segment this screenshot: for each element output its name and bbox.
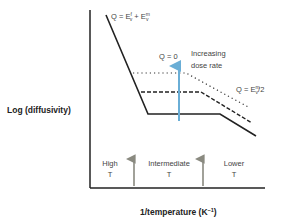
dose-rate-label-1: Increasing [191,49,226,58]
region-lower-line2: T [232,170,237,179]
top-activation-label: Q = Efv + Emv [111,11,150,22]
half-activation-label: Q = Emv/2 [236,84,264,95]
region-high-line1: High [102,159,117,168]
region-intermediate-line2: T [167,170,172,179]
dose-rate-label-2: dose rate [191,61,222,70]
dashed-curve [141,92,252,123]
y-axis-label: Log (diffusivity) [7,105,71,115]
region-lower-line1: Lower [224,159,245,168]
region-high-line2: T [108,170,113,179]
q-zero-label: Q = 0 [159,52,178,61]
solid-curve [106,15,256,136]
region-intermediate-line1: Intermediate [148,159,190,168]
diffusivity-diagram: Q = Efv + Emv Q = 0 Increasing dose rate… [0,0,284,223]
dotted-curve [133,73,250,108]
x-axis-label: 1/temperature (K−1) [140,207,217,217]
